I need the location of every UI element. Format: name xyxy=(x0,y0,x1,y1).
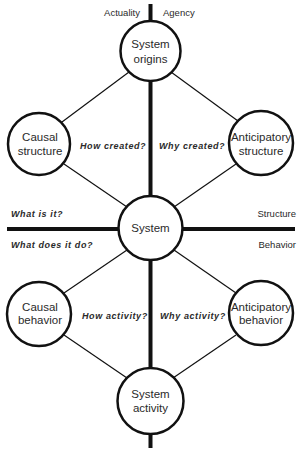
node-anticipatory-structure xyxy=(229,111,293,175)
label-system-origins-2: origins xyxy=(134,53,168,65)
axis-label-behavior: Behavior xyxy=(259,239,297,250)
question-what-does-it-do: What does it do? xyxy=(11,240,93,250)
diagram-canvas: System origins Causal structure Anticipa… xyxy=(0,0,299,450)
label-system-activity-1: System xyxy=(131,388,169,400)
connector-causal-structure-system xyxy=(64,164,127,207)
connector-origins-causal-structure xyxy=(62,72,129,122)
connector-system-anticipatory-behavior xyxy=(174,250,236,293)
label-causal-behavior-1: Causal xyxy=(22,301,58,313)
question-why-activity: Why activity? xyxy=(160,311,226,321)
label-anticipatory-behavior-1: Anticipatory xyxy=(231,301,291,313)
label-system-origins-1: System xyxy=(131,38,169,50)
connector-anticipatory-structure-system xyxy=(174,164,236,207)
axis-label-agency: Agency xyxy=(163,7,195,18)
label-system: System xyxy=(131,222,169,234)
label-anticipatory-structure-2: structure xyxy=(239,145,284,157)
node-system-activity xyxy=(118,368,184,434)
question-how-created: How created? xyxy=(80,141,146,151)
label-anticipatory-structure-1: Anticipatory xyxy=(231,131,291,143)
node-anticipatory-behavior xyxy=(229,281,293,345)
label-causal-behavior-2: behavior xyxy=(18,314,62,326)
axis-label-structure: Structure xyxy=(257,208,296,219)
node-causal-structure xyxy=(8,113,70,175)
label-anticipatory-behavior-2: behavior xyxy=(239,314,283,326)
connector-origins-anticipatory-structure xyxy=(171,72,238,121)
question-why-created: Why created? xyxy=(159,141,225,151)
connector-causal-behavior-activity xyxy=(64,335,127,378)
question-how-activity: How activity? xyxy=(82,311,148,321)
label-system-activity-2: activity xyxy=(133,402,168,414)
connector-system-causal-behavior xyxy=(64,250,127,293)
connector-anticipatory-behavior-activity xyxy=(173,335,236,378)
label-causal-structure-1: Causal xyxy=(22,131,58,143)
label-causal-structure-2: structure xyxy=(18,145,63,157)
system-diagram: System origins Causal structure Anticipa… xyxy=(0,0,299,450)
axis-label-actuality: Actuality xyxy=(104,7,140,18)
node-system-origins xyxy=(121,21,181,81)
question-what-is-it: What is it? xyxy=(11,209,63,219)
